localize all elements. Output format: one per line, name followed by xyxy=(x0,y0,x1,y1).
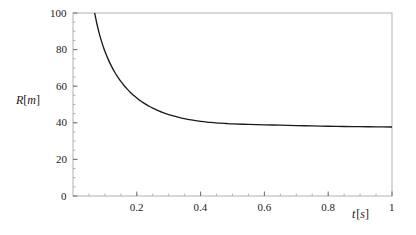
bracket-close: ] xyxy=(365,207,369,221)
y-tick-label: 0 xyxy=(61,191,67,202)
x-tick-label: 0.8 xyxy=(321,202,335,213)
y-tick-label: 80 xyxy=(56,44,67,55)
chart-figure: 0.20.40.60.81 020406080100 R[m] t [s] xyxy=(0,0,416,235)
y-tick-label: 20 xyxy=(56,154,67,165)
bracket-close: ] xyxy=(36,93,40,107)
x-tick-label: 1 xyxy=(389,202,395,213)
x-tick-label: 0.6 xyxy=(257,202,271,213)
y-tick-label: 100 xyxy=(50,8,67,19)
axis-unit: m xyxy=(27,93,36,107)
x-axis-title: t [s] xyxy=(352,208,369,220)
y-tick-label: 40 xyxy=(56,117,67,128)
y-axis-title: R[m] xyxy=(16,94,40,106)
x-tick-label: 0.2 xyxy=(130,202,144,213)
y-tick-label: 60 xyxy=(56,81,67,92)
x-tick-label: 0.4 xyxy=(194,202,208,213)
